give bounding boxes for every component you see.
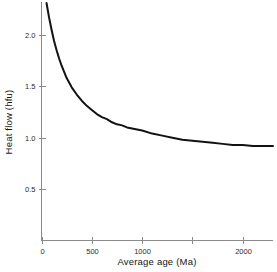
y-axis-title: Heat flow (hfu): [3, 90, 14, 155]
chart-plot-area: 0500100020000.51.01.52.0 Average age (Ma…: [0, 0, 277, 272]
heat-flow-curve: [47, 3, 273, 146]
x-tick-label-2: 1000: [134, 247, 151, 256]
axes-group: [42, 2, 274, 241]
heat-flow-chart-figure: 0500100020000.51.01.52.0 Average age (Ma…: [0, 0, 277, 272]
tick-marks-group: [39, 36, 244, 244]
x-tick-label-4: 2000: [235, 247, 252, 256]
y-tick-label-3: 2.0: [25, 31, 35, 40]
y-tick-label-0: 0.5: [25, 185, 35, 194]
x-tick-label-0: 0: [40, 247, 44, 256]
x-tick-label-1: 500: [86, 247, 99, 256]
x-axis-title: Average age (Ma): [117, 256, 196, 267]
y-tick-label-2: 1.5: [25, 82, 35, 91]
y-tick-label-1: 1.0: [25, 134, 35, 143]
